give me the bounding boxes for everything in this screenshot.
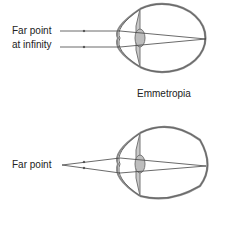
- far-point-label: Far point: [12, 25, 51, 36]
- myopic-eye: [117, 127, 208, 199]
- at-infinity-label: at infinity: [12, 39, 51, 50]
- emmetropia-caption: Emmetropia: [137, 88, 191, 99]
- parallel-rays: [60, 30, 206, 48]
- far-point-label-bottom: Far point: [12, 159, 51, 170]
- diverging-rays: [62, 158, 206, 173]
